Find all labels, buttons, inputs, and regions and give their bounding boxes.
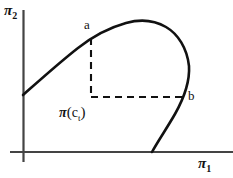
- plot-canvas: [0, 0, 233, 178]
- pi-ct-symbol: π: [59, 105, 67, 120]
- y-axis-label-subscript: 2: [12, 10, 17, 21]
- caption-strip: [0, 170, 233, 178]
- x-axis-label-symbol: π: [198, 155, 206, 171]
- pi-ct-value-label: π(ct): [59, 104, 85, 123]
- point-a-label: a: [84, 18, 90, 31]
- y-axis-label-symbol: π: [4, 2, 12, 18]
- pi-ct-close-paren: ): [80, 104, 85, 120]
- figure-container: π2 π1 a b π(ct): [0, 0, 233, 178]
- point-b-label: b: [188, 89, 195, 102]
- y-axis-label: π2: [4, 2, 17, 21]
- frontier-curve: [23, 21, 189, 152]
